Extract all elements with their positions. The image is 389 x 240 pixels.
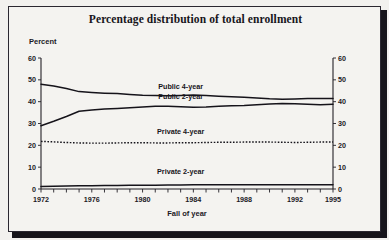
x-tick-label: 1988 — [236, 195, 252, 204]
x-tick-label: 1972 — [33, 195, 49, 204]
x-tick-label: 1980 — [135, 195, 151, 204]
x-tick-label: 1984 — [185, 195, 201, 204]
y-tick-label-right: 0 — [338, 185, 342, 194]
plot-area: 0102030405060010203040506019721976198019… — [9, 7, 382, 233]
y-tick-label-right: 20 — [338, 141, 346, 150]
y-tick-label-left: 0 — [32, 185, 36, 194]
series-label-private-4-year: Private 4-year — [157, 127, 204, 136]
y-tick-label-right: 60 — [338, 54, 346, 63]
y-tick-label-left: 10 — [28, 163, 36, 172]
y-tick-label-left: 20 — [28, 141, 36, 150]
series-line-private-2-year — [41, 185, 333, 187]
y-tick-label-right: 30 — [338, 119, 346, 128]
chart-frame: Percentage distribution of total enrollm… — [8, 6, 381, 232]
y-tick-label-right: 50 — [338, 75, 346, 84]
y-tick-label-left: 50 — [28, 75, 36, 84]
series-line-public-2-year — [41, 103, 333, 125]
y-tick-label-right: 10 — [338, 163, 346, 172]
x-axis-title: Fall of year — [167, 209, 207, 218]
y-tick-label-left: 40 — [28, 97, 36, 106]
x-tick-label: 1992 — [287, 195, 303, 204]
y-tick-label-left: 60 — [28, 54, 36, 63]
series-label-private-2-year: Private 2-year — [157, 167, 204, 176]
series-line-private-4-year — [41, 141, 333, 143]
figure-container: Percentage distribution of total enrollm… — [0, 0, 389, 240]
x-tick-label: 1995 — [325, 195, 341, 204]
y-tick-label-left: 30 — [28, 119, 36, 128]
x-tick-label: 1976 — [84, 195, 100, 204]
series-label-public-4-year: Public 4-year — [158, 82, 203, 91]
y-tick-label-right: 40 — [338, 97, 346, 106]
series-label-public-2-year: Public 2-year — [158, 92, 203, 101]
